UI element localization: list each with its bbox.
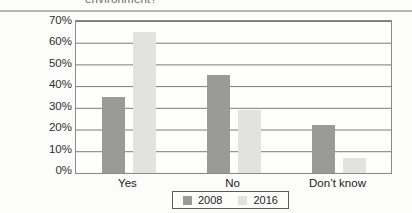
bar-groups [76, 21, 391, 173]
scanned-survey-chart-page: environment? 70%60%50%40%30%20%10%0% Yes… [0, 0, 412, 213]
bar-2008-no [207, 75, 230, 173]
legend-swatch-2016 [238, 196, 247, 205]
legend-item-2008: 2008 [183, 194, 222, 206]
x-category-label: No [180, 177, 285, 189]
bar-2016-no [238, 110, 261, 173]
bar-2008-yes [102, 97, 125, 173]
y-tick-label: 50% [18, 56, 72, 71]
legend-label-2016: 2016 [253, 194, 277, 206]
y-tick-label: 20% [18, 120, 72, 135]
legend-item-2016: 2016 [238, 194, 277, 206]
x-axis: YesNoDon’t know [75, 177, 390, 189]
clipped-heading-text: environment? [85, 0, 285, 6]
y-tick-label: 30% [18, 99, 72, 114]
y-tick-label: 10% [18, 142, 72, 157]
y-tick-label: 60% [18, 34, 72, 49]
y-tick-label: 70% [18, 13, 72, 28]
bar-group-3 [286, 21, 391, 173]
clipped-heading-fragment: environment? [85, 0, 285, 5]
x-category-label: Yes [75, 177, 180, 189]
legend-label-2008: 2008 [198, 194, 222, 206]
y-tick-label: 0% [18, 163, 72, 178]
bar-2016-yes [133, 32, 156, 173]
bar-2008-don-t-know [312, 125, 335, 173]
legend-swatch-2008 [183, 196, 192, 205]
bar-2016-don-t-know [343, 158, 366, 173]
y-axis: 70%60%50%40%30%20%10%0% [18, 13, 72, 179]
bar-group-1 [76, 21, 181, 173]
chart-legend: 20082016 [172, 191, 289, 209]
plot-area [75, 20, 392, 174]
x-category-label: Don’t know [285, 177, 390, 189]
bar-group-2 [181, 21, 286, 173]
y-tick-label: 40% [18, 77, 72, 92]
